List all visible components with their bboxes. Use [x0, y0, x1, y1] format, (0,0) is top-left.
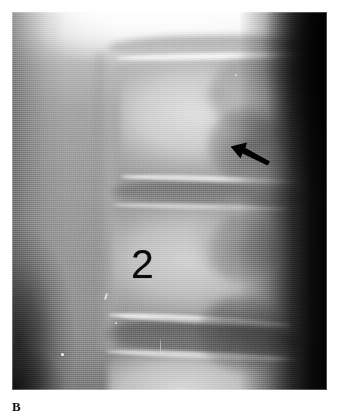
- figure-panel: 2 B: [0, 0, 338, 419]
- emulsion-speck-icon: [160, 339, 161, 355]
- pointer-arrow-icon: [226, 138, 274, 170]
- anterior-vertebral-margin: [96, 52, 122, 352]
- vertebra-number-label: 2: [131, 244, 154, 285]
- posterior-elements-texture: [194, 48, 310, 378]
- panel-caption-label: B: [12, 400, 21, 414]
- radiograph-image: 2: [12, 12, 327, 390]
- emulsion-speck-icon: [235, 74, 237, 76]
- emulsion-speck-icon: [61, 353, 64, 356]
- emulsion-speck-icon: [115, 322, 117, 324]
